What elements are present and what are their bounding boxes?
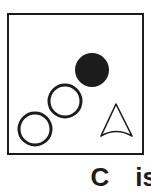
panel-label: C xyxy=(91,162,110,192)
caption: C is xyxy=(0,160,151,193)
shape-canvas xyxy=(9,15,142,153)
open-circle-middle-icon xyxy=(49,85,81,117)
filled-circle-icon xyxy=(75,53,109,87)
shape-box xyxy=(7,13,144,155)
caption-text: is xyxy=(135,162,151,192)
north-arrow-icon xyxy=(101,104,132,136)
open-circle-lower-left-icon xyxy=(19,113,51,145)
figure-panel: C is xyxy=(0,0,151,193)
